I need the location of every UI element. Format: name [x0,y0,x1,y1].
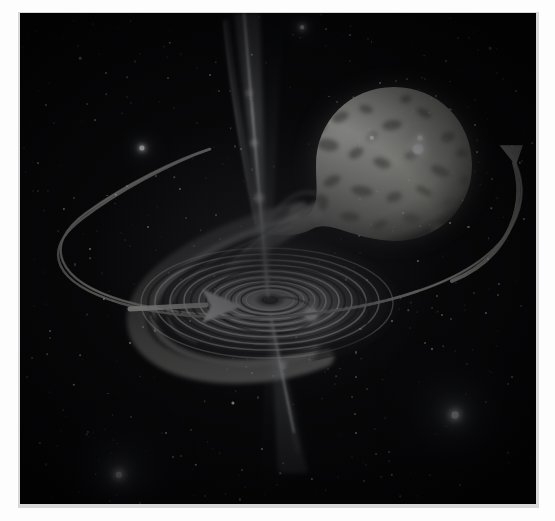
star-faint [503,217,504,218]
starfield [20,13,536,504]
star-faint [489,288,490,289]
star-faint [230,127,232,129]
star-faint [227,159,228,160]
star-faint [128,14,129,15]
star-faint [246,358,248,360]
star-faint [514,381,515,382]
star-faint [197,264,199,266]
star-faint [257,396,259,398]
star-faint [61,266,62,267]
star-faint [287,383,288,384]
star-faint [245,232,246,233]
star-faint [400,297,402,299]
star-faint [488,370,490,372]
star-faint [88,436,89,437]
star-faint [370,224,372,226]
star-faint [63,37,64,38]
star-faint [507,240,508,241]
star-faint [486,172,487,173]
star-faint [276,278,277,279]
star-faint [172,410,173,411]
star-faint [273,166,274,167]
star-faint [119,394,120,395]
star-faint [345,266,346,267]
star-faint [101,273,102,274]
star-faint [305,270,306,271]
star-faint [44,210,45,211]
star-faint [198,50,199,51]
star-faint [264,493,265,494]
star-faint [238,474,239,475]
star [300,25,304,29]
star-faint [182,370,183,371]
star-faint [345,278,347,280]
star-faint [123,42,124,43]
star-faint [512,146,514,148]
star-faint [206,177,207,178]
star-faint [453,173,454,174]
star-faint [359,252,361,254]
star-faint [462,199,464,201]
star-faint [227,369,228,370]
star-faint [340,368,342,370]
image-plate: Artist's impression of an X-ray binary: … [0,0,555,521]
star [139,502,141,504]
star-faint [487,118,489,120]
star-faint [98,54,99,55]
star-faint [416,312,417,313]
star-faint [82,359,83,360]
star-faint [113,300,114,301]
star-faint [446,426,447,427]
star-faint [418,381,419,382]
star-faint [464,305,465,306]
star-faint [496,345,497,346]
star [449,222,451,224]
star-faint [86,314,87,315]
star-faint [460,53,462,55]
star-faint [264,298,266,300]
star-faint [445,60,447,62]
star-faint [406,78,408,80]
star-faint [112,440,113,441]
star-faint [363,480,365,482]
star-faint [321,14,322,15]
star [261,448,263,450]
star-faint [411,302,412,303]
star-faint [28,34,30,36]
star-faint [106,195,108,197]
star-faint [293,403,294,404]
star-faint [159,101,160,102]
star-faint [214,288,216,290]
star [103,298,105,300]
star-faint [392,230,393,231]
star-faint [134,60,136,62]
star-faint [190,429,192,431]
star-faint [384,417,386,419]
star-faint [325,372,326,373]
star-faint [389,460,390,461]
star-faint [215,62,216,63]
star [452,412,459,419]
star-faint [467,106,469,108]
star-faint [498,283,500,285]
star-faint [26,171,27,172]
star-faint [117,27,118,28]
star-faint [355,351,357,353]
star-faint [244,487,245,488]
star-faint [283,367,285,369]
star-faint [382,379,383,380]
star-faint [154,376,155,377]
star-faint [412,111,414,113]
star [37,162,39,164]
star-faint [353,97,354,98]
star-faint [315,492,316,493]
star-faint [280,472,281,473]
star-faint [130,245,131,246]
star-faint [365,464,367,466]
star-faint [388,451,390,453]
star-faint [477,49,479,51]
star-faint [45,463,47,465]
star-faint [309,359,311,361]
star-faint [213,275,215,277]
star-faint [48,81,50,83]
